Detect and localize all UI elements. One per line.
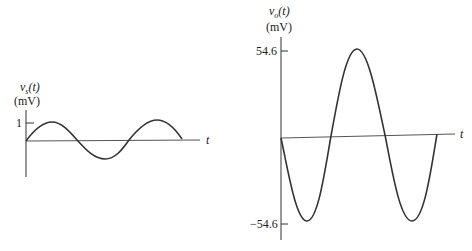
right-plot: vo(t) (mV) 54.6 −54.6 t bbox=[250, 4, 464, 240]
right-x-axis bbox=[281, 134, 455, 138]
left-x-label: t bbox=[206, 133, 210, 147]
diagram-canvas: vs(t) (mV) 1 t vo(t) (mV) 54.6 −54.6 t bbox=[0, 0, 472, 251]
right-y-unit: (mV) bbox=[266, 20, 292, 34]
left-x-axis bbox=[26, 140, 200, 141]
right-tick-top-label: 54.6 bbox=[256, 44, 277, 58]
left-plot: vs(t) (mV) 1 t bbox=[14, 80, 210, 177]
left-sine-curve bbox=[26, 120, 182, 159]
right-x-label: t bbox=[460, 127, 464, 141]
right-tick-bottom-label: −54.6 bbox=[250, 217, 278, 231]
left-tick-label: 1 bbox=[16, 116, 22, 130]
right-y-label: vo(t) bbox=[269, 4, 290, 20]
left-y-unit: (mV) bbox=[14, 94, 40, 108]
